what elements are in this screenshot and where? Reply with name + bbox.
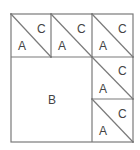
label-c: C	[37, 22, 46, 36]
quilt-block-diagram: A C A C A C A C A C B	[0, 0, 140, 150]
label-a: A	[18, 39, 26, 53]
label-c: C	[118, 107, 127, 121]
label-b: B	[48, 93, 56, 107]
label-c: C	[118, 64, 127, 78]
label-a: A	[99, 124, 107, 138]
label-a: A	[99, 82, 107, 96]
label-a: A	[99, 39, 107, 53]
label-a: A	[58, 39, 66, 53]
label-c: C	[118, 22, 127, 36]
label-c: C	[77, 22, 86, 36]
